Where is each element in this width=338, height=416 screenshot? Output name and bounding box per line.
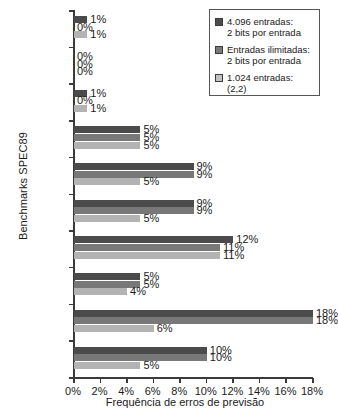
bar	[74, 178, 140, 185]
bar-value-label: 18%	[316, 316, 338, 325]
bar	[74, 163, 194, 170]
bar-value-label: 9%	[197, 206, 213, 215]
x-axis-tick	[179, 378, 181, 383]
bar-group: doduc5%5%5%	[73, 120, 312, 157]
bar-value-label: 5%	[143, 361, 159, 370]
bar	[74, 105, 87, 112]
bar	[74, 142, 140, 149]
chart-legend: 4.096 entradas:2 bits por entrada Entrad…	[209, 9, 320, 96]
bar-value-label: 10%	[210, 353, 232, 362]
x-axis-line	[73, 377, 313, 379]
legend-item: 1.024 entradas:(2,2)	[215, 72, 314, 94]
bar	[74, 134, 140, 141]
bar	[74, 347, 207, 354]
bar	[74, 171, 194, 178]
y-axis-tick	[69, 340, 74, 342]
legend-item-label-line2: 2 bits por entrada	[227, 55, 310, 66]
legend-item: 4.096 entradas:2 bits por entrada	[215, 16, 314, 38]
bar	[74, 273, 140, 280]
bar	[74, 215, 140, 222]
bar-value-label: 5%	[143, 177, 159, 186]
legend-item-label-line2: (2,2)	[227, 83, 293, 94]
y-axis-tick	[69, 157, 74, 159]
x-axis-tick	[206, 378, 208, 383]
bar	[74, 31, 87, 38]
bar-value-label: 5%	[143, 141, 159, 150]
legend-item-label-line2: 2 bits por entrada	[227, 27, 301, 38]
x-axis-tick	[232, 378, 234, 383]
light-gray-swatch	[215, 74, 223, 82]
y-axis-tick	[69, 10, 74, 12]
x-axis-tick	[73, 378, 75, 383]
bar	[74, 252, 220, 259]
bar	[74, 317, 313, 324]
legend-item-label-line1: Entradas ilimitadas:	[227, 44, 310, 55]
bar	[74, 288, 127, 295]
bar-group: spice9%9%5%	[73, 157, 312, 194]
bar	[74, 325, 154, 332]
bar-group: espresso5%5%4%	[73, 267, 312, 304]
bar-group: fpppp9%9%5%	[73, 194, 312, 231]
legend-item-label-line1: 4.096 entradas:	[227, 16, 301, 27]
bar-value-label: 4%	[130, 287, 146, 296]
y-axis-title: Benchmarks SPEC89	[17, 106, 29, 266]
bar	[74, 200, 194, 207]
x-axis-tick	[153, 378, 155, 383]
y-axis-tick	[69, 267, 74, 269]
y-axis-tick	[69, 120, 74, 122]
y-axis-tick	[69, 304, 74, 306]
bar-value-label: 9%	[197, 170, 213, 179]
bar	[74, 207, 194, 214]
bar-group: eqntott18%18%6%	[73, 304, 312, 341]
x-axis-tick	[126, 378, 128, 383]
bar-value-label: 5%	[143, 214, 159, 223]
legend-item: Entradas ilimitadas:2 bits por entrada	[215, 44, 314, 66]
y-axis-tick	[69, 194, 74, 196]
bar	[74, 126, 140, 133]
y-axis-tick	[69, 83, 74, 85]
dark-gray-swatch	[215, 18, 223, 26]
x-axis-title: Frequência de erros de previsão	[50, 396, 320, 408]
bar	[74, 354, 207, 361]
bar-value-label: 6%	[157, 324, 173, 333]
bar-group: gcc12%11%11%	[73, 230, 312, 267]
bar-value-label: 11%	[223, 251, 244, 260]
y-axis-tick	[69, 230, 74, 232]
bar	[74, 310, 313, 317]
x-axis-tick	[100, 378, 102, 383]
legend-item-label-line1: 1.024 entradas:	[227, 72, 293, 83]
bar	[74, 362, 140, 369]
bar	[74, 244, 220, 251]
medium-gray-swatch	[215, 46, 223, 54]
y-axis-tick	[69, 47, 74, 49]
bar-group: li10%10%5%	[73, 340, 312, 377]
x-axis-tick	[285, 378, 287, 383]
bar	[74, 236, 233, 243]
bar-value-label: 1%	[90, 104, 106, 113]
bar-value-label: 1%	[90, 30, 106, 39]
x-axis-tick	[259, 378, 261, 383]
x-axis-tick	[312, 378, 314, 383]
bar-value-label: 0%	[77, 67, 93, 76]
